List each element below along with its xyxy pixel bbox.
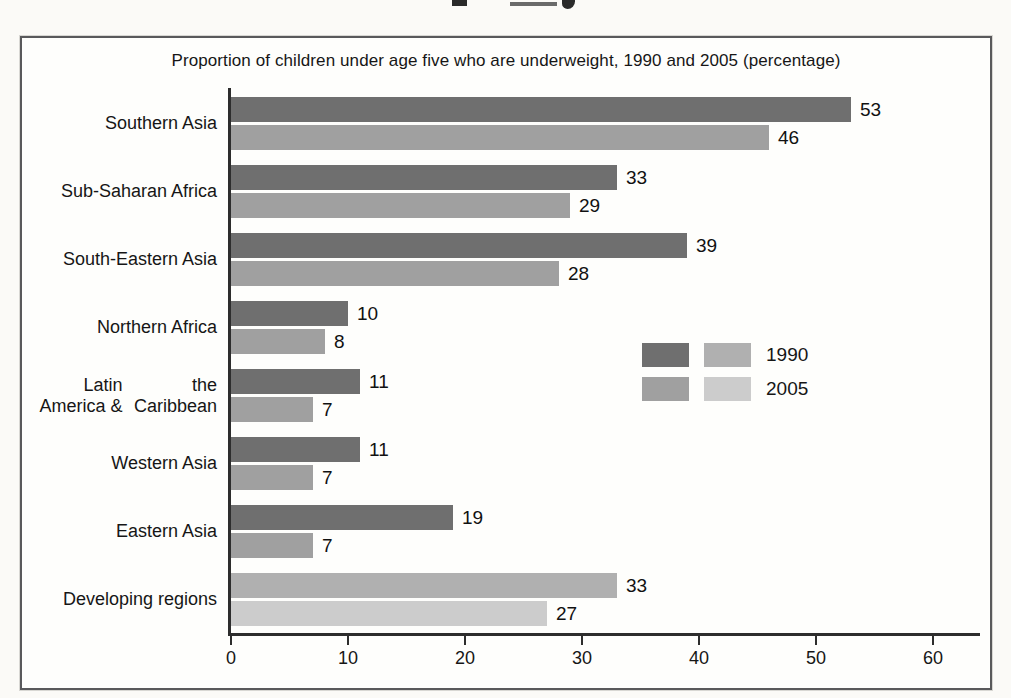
value-label: 33: [626, 573, 647, 598]
x-axis-tick: [932, 636, 934, 645]
bar-group-south-eastern-asia: South-Eastern Asia3928: [231, 233, 980, 286]
value-label: 7: [322, 533, 333, 558]
legend-label: 2005: [766, 378, 808, 400]
legend-swatch-icon: [704, 343, 751, 367]
bar-group-northern-africa: Northern Africa108: [231, 301, 980, 354]
x-axis-tick: [581, 636, 583, 645]
plot-area: Southern Asia5346Sub-Saharan Africa3329S…: [228, 88, 980, 636]
bar-2005: 28: [231, 261, 559, 286]
bar-1990: 19: [231, 505, 453, 530]
bar-group-latin-america-the-caribbean: Latin America &the Caribbean117: [231, 369, 980, 422]
value-label: 33: [626, 165, 647, 190]
x-axis-tick-label: 50: [806, 648, 826, 669]
category-label: South-Eastern Asia: [17, 233, 217, 286]
value-label: 19: [462, 505, 483, 530]
legend-row-1990: 1990: [642, 343, 808, 367]
legend-swatch-icon: [704, 377, 751, 401]
legend-swatch-icon: [642, 343, 689, 367]
value-label: 53: [860, 97, 881, 122]
bar-1990: 10: [231, 301, 348, 326]
bar-2005: 8: [231, 329, 325, 354]
x-axis-tick: [464, 636, 466, 645]
bar-2005: 46: [231, 125, 769, 150]
value-label: 7: [322, 397, 333, 422]
chart-frame: Proportion of children under age five wh…: [20, 36, 992, 690]
value-label: 11: [369, 369, 389, 394]
value-label: 27: [556, 601, 577, 626]
x-axis-tick: [230, 636, 232, 645]
legend-row-2005: 2005: [642, 377, 808, 401]
bar-group-sub-saharan-africa: Sub-Saharan Africa3329: [231, 165, 980, 218]
bar-1990: 11: [231, 437, 360, 462]
value-label: 28: [568, 261, 589, 286]
bar-group-southern-asia: Southern Asia5346: [231, 97, 980, 150]
bar-2005: 7: [231, 465, 313, 490]
bar-2005: 7: [231, 533, 313, 558]
cropped-heading-fragment: [452, 0, 467, 6]
value-label: 10: [357, 301, 378, 326]
category-label: Developing regions: [17, 573, 217, 626]
cropped-heading-fragment: [510, 2, 557, 6]
category-label: Sub-Saharan Africa: [17, 165, 217, 218]
x-axis-tick-label: 30: [572, 648, 592, 669]
scanned-page-background: Proportion of children under age five wh…: [0, 0, 1011, 698]
bar-group-developing-regions: Developing regions3327: [231, 573, 980, 626]
x-axis-tick: [815, 636, 817, 645]
legend-swatch-icon: [642, 377, 689, 401]
bar-2005: 27: [231, 601, 547, 626]
bar-1990: 33: [231, 573, 617, 598]
bar-group-eastern-asia: Eastern Asia197: [231, 505, 980, 558]
legend-label: 1990: [766, 344, 808, 366]
x-axis-tick: [698, 636, 700, 645]
value-label: 7: [322, 465, 333, 490]
value-label: 11: [369, 437, 389, 462]
bar-1990: 39: [231, 233, 687, 258]
x-axis-tick-label: 20: [455, 648, 475, 669]
bar-2005: 7: [231, 397, 313, 422]
cropped-heading-fragment: [562, 0, 575, 9]
value-label: 46: [778, 125, 799, 150]
category-label: Latin America &the Caribbean: [17, 369, 217, 422]
x-axis-tick-label: 0: [226, 648, 236, 669]
category-label: Eastern Asia: [17, 505, 217, 558]
value-label: 29: [579, 193, 600, 218]
bar-2005: 29: [231, 193, 570, 218]
x-axis-tick-label: 10: [338, 648, 358, 669]
bar-group-western-asia: Western Asia117: [231, 437, 980, 490]
legend: 19902005: [642, 343, 808, 411]
x-axis-tick-label: 40: [689, 648, 709, 669]
category-label: Western Asia: [17, 437, 217, 490]
category-label: Southern Asia: [17, 97, 217, 150]
bar-1990: 53: [231, 97, 851, 122]
bar-1990: 11: [231, 369, 360, 394]
chart-title: Proportion of children under age five wh…: [22, 51, 990, 71]
value-label: 39: [696, 233, 717, 258]
bar-1990: 33: [231, 165, 617, 190]
value-label: 8: [334, 329, 345, 354]
category-label: Northern Africa: [17, 301, 217, 354]
x-axis-tick: [347, 636, 349, 645]
x-axis-tick-label: 60: [923, 648, 943, 669]
